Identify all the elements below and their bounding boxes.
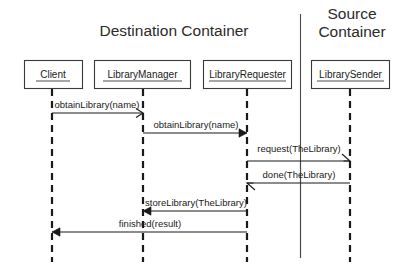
participant-label-library-requester: LibraryRequester (209, 69, 286, 80)
message-label-2: obtainLibrary(name) (153, 119, 238, 130)
message-arrowhead-3 (342, 154, 350, 161)
participant-label-library-sender: LibrarySender (319, 69, 382, 80)
message-done-the-library: done(TheLibrary) (247, 169, 350, 190)
message-obtain-library-manager: obtainLibrary(name) (143, 119, 247, 137)
message-arrowhead-6 (52, 228, 60, 236)
sequence-diagram-canvas: Destination Container Source Container C… (0, 0, 406, 276)
sequence-diagram: Destination Container Source Container C… (0, 0, 406, 276)
message-label-4: done(TheLibrary) (263, 169, 336, 180)
message-label-3: request(TheLibrary) (257, 143, 340, 154)
source-container-title-line1: Source (327, 5, 376, 22)
message-label-5: storeLibrary(TheLibrary) (145, 197, 247, 208)
message-request-the-library: request(TheLibrary) (247, 143, 350, 161)
message-arrowhead-4 (247, 183, 255, 190)
message-label-1: obtainLibrary(name) (54, 99, 139, 110)
message-store-library: storeLibrary(TheLibrary) (143, 197, 247, 215)
source-container-title-line2: Container (318, 23, 385, 40)
participant-label-client: Client (40, 69, 66, 80)
participant-label-library-manager: LibraryManager (107, 69, 178, 80)
message-arrowhead-2 (239, 129, 247, 137)
message-arrowhead-5 (143, 207, 151, 215)
message-obtain-library-client: obtainLibrary(name) (52, 99, 143, 118)
message-finished-result: finished(result) (52, 218, 247, 236)
destination-container-title: Destination Container (99, 22, 248, 39)
message-label-6: finished(result) (119, 218, 181, 229)
